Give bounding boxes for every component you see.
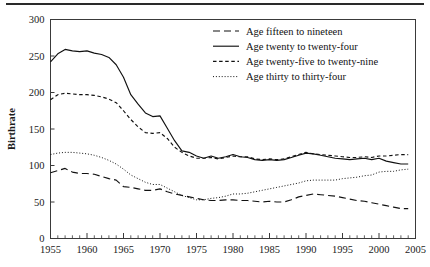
- birthrate-line-chart-figure: 0501001502002503001955196019651970197519…: [0, 0, 430, 267]
- x-tick-label: 2005: [405, 244, 426, 255]
- x-tick-label: 1960: [77, 244, 98, 255]
- legend-label-3: Age thirty to thirty-four: [246, 71, 347, 82]
- y-tick-label: 100: [29, 160, 45, 171]
- y-tick-label: 50: [34, 197, 45, 208]
- x-tick-label: 1955: [40, 244, 61, 255]
- chart-canvas: 0501001502002503001955196019651970197519…: [0, 0, 430, 267]
- x-tick-label: 1985: [259, 244, 280, 255]
- y-tick-label: 150: [29, 124, 45, 135]
- y-tick-label: 250: [29, 51, 45, 62]
- x-tick-label: 1965: [113, 244, 134, 255]
- series-line-2: [51, 93, 409, 159]
- y-axis-title: Birthrate: [6, 108, 17, 150]
- series-line-0: [51, 168, 409, 208]
- x-tick-label: 1980: [223, 244, 244, 255]
- legend-label-0: Age fifteen to nineteen: [246, 26, 343, 37]
- legend-label-2: Age twenty-five to twenty-nine: [246, 56, 378, 67]
- x-tick-label: 1970: [150, 244, 171, 255]
- x-tick-label: 1990: [296, 244, 317, 255]
- plot-frame: [51, 20, 416, 239]
- y-tick-label: 0: [39, 233, 44, 244]
- x-tick-label: 1995: [332, 244, 353, 255]
- x-tick-label: 1975: [186, 244, 207, 255]
- legend-label-1: Age twenty to twenty-four: [246, 41, 358, 52]
- y-tick-label: 300: [29, 14, 45, 25]
- y-tick-label: 200: [29, 87, 45, 98]
- x-tick-label: 2000: [369, 244, 390, 255]
